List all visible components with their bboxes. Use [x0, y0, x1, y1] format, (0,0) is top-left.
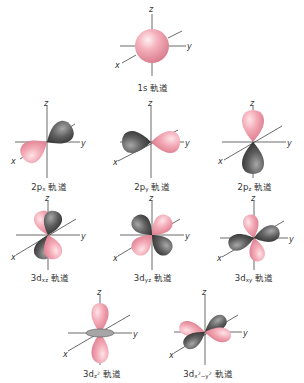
orbital-label-3dz2: 3dz2 軌道: [83, 367, 121, 379]
z-axis-label: z: [96, 288, 102, 297]
y-axis-label: y: [186, 42, 192, 51]
x-axis-label: x: [216, 254, 222, 263]
x-axis-label: x: [168, 351, 174, 360]
orbital-3dx2-y2: z y x 3dx2−y2 軌道: [158, 287, 264, 383]
y-axis-label: y: [288, 235, 294, 244]
y-axis-label: y: [80, 139, 86, 148]
orbital-1s: z y x 1s 軌道: [102, 0, 202, 100]
nodal-torus-icon: [86, 329, 114, 337]
z-axis-label: z: [44, 194, 50, 203]
x-axis-label: x: [10, 253, 16, 262]
x-axis-label: x: [217, 157, 223, 166]
y-axis-label: y: [242, 329, 248, 338]
orbital-label-1s: 1s 軌道: [137, 81, 168, 93]
x-axis-label: x: [62, 350, 68, 359]
z-axis-label: z: [201, 288, 207, 297]
x-axis-label: x: [112, 254, 118, 263]
orbital-2pz: z y x 2pz 軌道: [200, 100, 304, 195]
y-axis-label: y: [286, 139, 292, 148]
x-axis-label: x: [112, 158, 118, 167]
orbital-label-2py: 2py 軌道: [134, 180, 169, 192]
z-axis-label: z: [148, 5, 154, 14]
orbital-3dxy: z y x 3dxy 軌道: [200, 195, 304, 287]
z-axis-label: z: [249, 99, 255, 108]
orbital-label-3dxy: 3dxy 軌道: [235, 271, 274, 283]
orbital-label-3dx2-y2: 3dx2−y2 軌道: [183, 367, 232, 379]
z-axis-label: z: [43, 99, 49, 108]
orbital-label-2px: 2px 軌道: [31, 180, 66, 192]
orbital-2px: z y x 2px 軌道: [0, 100, 100, 195]
y-axis-label: y: [184, 139, 190, 148]
y-axis-label: y: [184, 232, 190, 241]
x-axis-label: x: [114, 61, 120, 70]
orbital-3dz2: z y x 3dz2 軌道: [52, 287, 152, 383]
orbital-3dxz: z y x 3dxz 軌道: [0, 195, 100, 287]
z-axis-label: z: [148, 194, 154, 203]
orbital-label-3dxz: 3dxz 軌道: [31, 271, 69, 283]
z-axis-label: z: [250, 194, 256, 203]
z-axis-label: z: [147, 99, 153, 108]
orbital-label-2pz: 2pz 軌道: [237, 180, 272, 192]
x-axis-label: x: [10, 157, 16, 166]
orbital-3dyz: z y x 3dyz 軌道: [100, 195, 204, 287]
orbital-label-3dyz: 3dyz 軌道: [134, 271, 172, 283]
y-axis-label: y: [132, 330, 138, 339]
y-axis-label: y: [80, 232, 86, 241]
orbital-2py: z y x 2py 軌道: [100, 100, 204, 195]
s-sphere-icon: [135, 29, 169, 63]
